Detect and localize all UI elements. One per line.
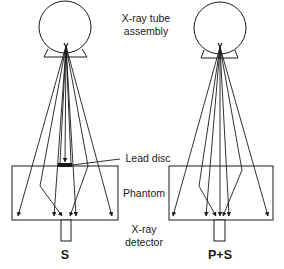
label-xray-tube: X-ray tube <box>122 12 171 24</box>
xray-beams-right <box>173 47 268 216</box>
detector-right <box>214 220 225 241</box>
panel-right-primary-scatter: P+S <box>169 2 273 262</box>
label-lead-disc: Lead disc <box>126 152 171 164</box>
label-assembly: assembly <box>124 25 169 37</box>
panel-left-scatter: S <box>12 1 120 262</box>
label-detector: detector <box>125 236 163 248</box>
label-phantom: Phantom <box>123 187 165 199</box>
lead-disc <box>58 163 72 167</box>
xray-beams-left <box>18 46 112 216</box>
label-xray: X-ray <box>131 223 157 235</box>
detector-left <box>61 220 71 241</box>
lead-disc-leader <box>72 159 120 165</box>
panel-caption-ps: P+S <box>208 248 232 262</box>
xray-scatter-diagram: S P+S X-ray tube assembly Lead disc Phan… <box>0 0 284 269</box>
phantom-left <box>12 166 118 220</box>
panel-caption-s: S <box>61 248 69 262</box>
center-labels: X-ray tube assembly Lead disc Phantom X-… <box>122 12 171 248</box>
